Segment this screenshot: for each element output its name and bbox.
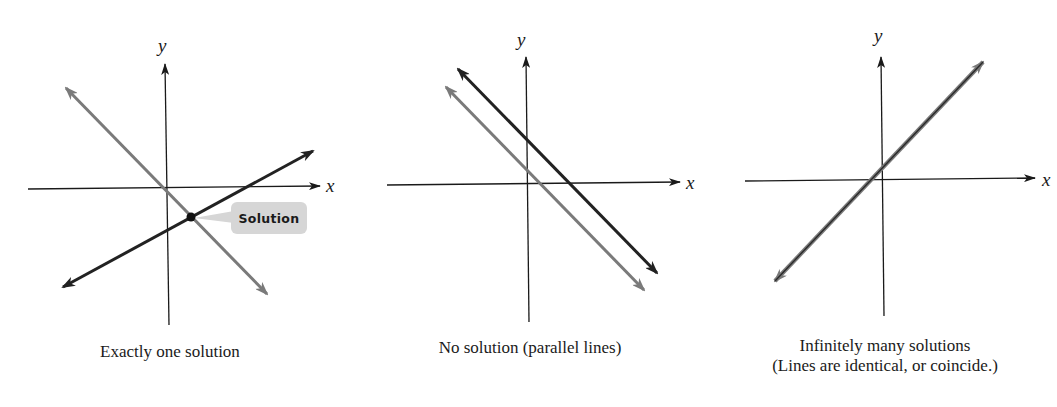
dark-line [458, 69, 657, 273]
callout-label: Solution [239, 211, 300, 226]
panel-infinite-solutions: x y [745, 25, 1051, 316]
dark-line-coincident [775, 62, 983, 281]
caption-infinite-solutions: Infinitely many solutions (Lines are ide… [735, 336, 1035, 376]
x-axis [28, 186, 320, 189]
y-axis [526, 57, 529, 322]
y-axis-label: y [156, 35, 167, 56]
y-axis-label: y [515, 29, 526, 50]
panel-one-solution: x y Solution [28, 35, 335, 325]
x-axis [387, 182, 680, 185]
caption-line: Infinitely many solutions [735, 336, 1035, 356]
y-axis-label: y [872, 25, 883, 46]
x-axis [745, 178, 1035, 181]
caption-one-solution: Exactly one solution [40, 342, 300, 362]
panel-no-solution: x y [387, 29, 695, 322]
y-axis [881, 57, 884, 316]
caption-line: Exactly one solution [40, 342, 300, 362]
caption-line: No solution (parallel lines) [400, 338, 660, 358]
solution-point [187, 213, 196, 222]
x-axis-label: x [685, 172, 695, 193]
x-axis-label: x [1041, 169, 1051, 190]
gray-line [446, 87, 644, 290]
x-axis-label: x [325, 175, 335, 196]
caption-no-solution: No solution (parallel lines) [400, 338, 660, 358]
caption-line: (Lines are identical, or coincide.) [735, 356, 1035, 376]
